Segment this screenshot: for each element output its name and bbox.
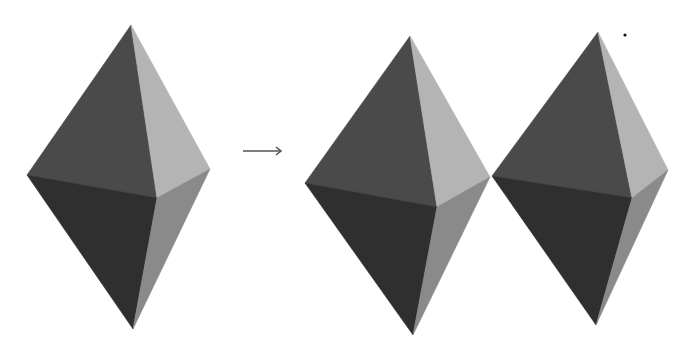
stray-dot [623, 33, 626, 36]
face-lower-left [492, 176, 632, 325]
diagram-canvas [0, 0, 695, 344]
bipyramid-copy-1 [305, 36, 490, 335]
bipyramid-copy-2 [492, 32, 668, 325]
bipyramid-original [27, 25, 210, 329]
transform-arrow-icon [243, 147, 281, 155]
face-upper-left [492, 32, 632, 198]
shapes-layer [27, 25, 668, 335]
